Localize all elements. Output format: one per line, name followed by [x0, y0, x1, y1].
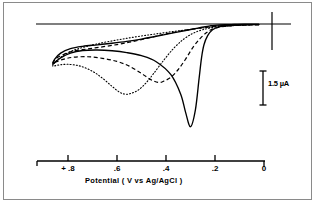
trace-dashed-curve [53, 25, 259, 83]
figure-cyclic-voltammogram: + .8 .6 .4 .2 0 1.5 µA Potential ( V vs … [0, 0, 316, 203]
x-axis-title: Potential ( V vs Ag/AgCl ) [85, 176, 183, 185]
trace-dotted-curve [53, 24, 259, 94]
x-tick-label-0: + .8 [46, 164, 90, 173]
x-tick-label-1: .6 [105, 164, 129, 173]
x-tick-label-3: .2 [203, 164, 227, 173]
trace-solid-curve [53, 24, 259, 126]
scalebar-label: 1.5 µA [268, 79, 289, 88]
x-tick-label-2: .4 [154, 164, 178, 173]
voltammogram-traces [53, 24, 259, 126]
x-tick-label-4: 0 [253, 164, 275, 173]
current-scalebar [260, 71, 267, 105]
